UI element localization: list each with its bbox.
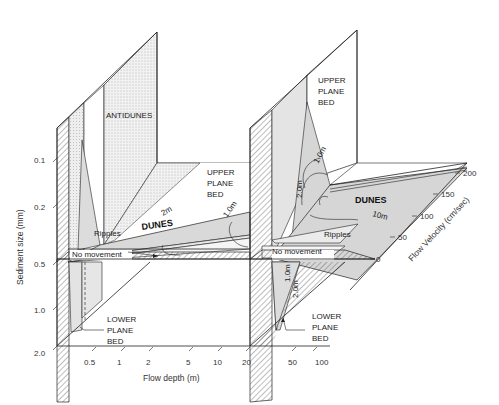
depth-tick-3: 5: [186, 358, 191, 367]
lower-plane-bed-leader-right: [283, 318, 305, 330]
depth-tick-4: 10: [213, 358, 222, 367]
sediment-tick-1: 0.2: [34, 203, 46, 212]
no-movement-left-label: No movement: [72, 250, 123, 259]
left-lower-strip: [69, 262, 82, 332]
velocity-tick-0: 0: [376, 255, 381, 264]
sediment-size-axis: 0.1 0.2 0.5 1.0 2.0 Sediment size (mm): [15, 156, 57, 358]
lower-plane-bed-right-line2: PLANE: [312, 323, 338, 332]
depth-tick-5: 20: [242, 358, 251, 367]
ripples-left-label: Ripples: [94, 229, 121, 238]
lower-velocity-tick-1: 50: [288, 358, 297, 367]
depth-tick-0: 0.5: [84, 358, 96, 367]
lower-plane-bed-left-line3: BED: [107, 337, 124, 346]
lower-plane-bed-left-line2: PLANE: [107, 326, 133, 335]
sediment-tick-2: 0.5: [34, 260, 46, 269]
antidunes-label: ANTIDUNES: [106, 111, 152, 120]
right-block: [250, 30, 467, 402]
sediment-tick-3: 1.0: [34, 306, 46, 315]
upper-plane-bed-left-line3: BED: [207, 190, 224, 199]
left-block: [57, 32, 250, 402]
velocity-tick-1: 50: [398, 233, 407, 242]
lower-plane-bed-right-label: LOWER PLANE BED: [312, 312, 342, 343]
no-movement-right-label: No movement: [272, 247, 323, 256]
lower-plane-bed-leader-left: [80, 327, 104, 330]
contour-label-2m-wall: 2.0m: [295, 180, 304, 198]
contour-label-2m-lower: 2.0m: [291, 280, 300, 298]
depth-tick-2: 2: [146, 358, 151, 367]
sediment-tick-4: 2.0: [34, 349, 46, 358]
upper-plane-bed-right-line2: PLANE: [318, 87, 344, 96]
upper-plane-bed-left-line2: PLANE: [207, 179, 233, 188]
velocity-tick-2: 100: [420, 212, 434, 221]
velocity-tick-4: 200: [463, 169, 477, 178]
lower-velocity-axis: 50 100: [288, 347, 329, 367]
upper-plane-bed-left-line1: UPPER: [207, 168, 235, 177]
lower-plane-bed-right-line1: LOWER: [312, 312, 342, 321]
lower-velocity-tick-2: 100: [315, 358, 329, 367]
flow-depth-axis-label: Flow depth (m): [143, 373, 200, 383]
velocity-tick-3: 150: [441, 190, 455, 199]
flow-depth-axis: 0.5 1 2 5 10 20 Flow depth (m): [84, 347, 251, 383]
ripples-right-label: Ripples: [324, 230, 351, 239]
sediment-size-axis-label: Sediment size (mm): [15, 209, 25, 285]
contour-label-1m-lower: 1.0m: [283, 264, 292, 282]
lower-plane-bed-right-line3: BED: [312, 334, 329, 343]
lower-plane-bed-left-label: LOWER PLANE BED: [107, 315, 137, 346]
depth-tick-1: 1: [117, 358, 122, 367]
sediment-tick-0: 0.1: [34, 156, 46, 165]
bedform-diagram: 0.1 0.2 0.5 1.0 2.0 Sediment size (mm) 0…: [0, 0, 499, 405]
upper-plane-bed-right-line1: UPPER: [318, 76, 346, 85]
upper-plane-bed-right-line3: BED: [318, 98, 335, 107]
lower-plane-bed-left-line1: LOWER: [107, 315, 137, 324]
dunes-right-label: DUNES: [355, 195, 387, 205]
